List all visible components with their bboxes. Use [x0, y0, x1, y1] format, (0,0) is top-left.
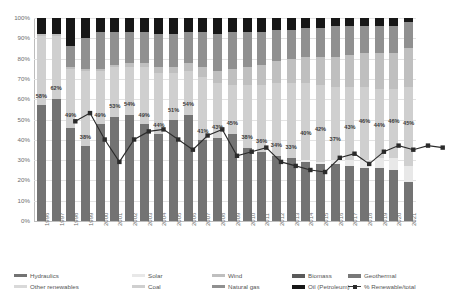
- x-tick-label: 2011: [264, 213, 270, 226]
- line-point-label: 38%: [80, 134, 91, 140]
- line-marker[interactable]: [161, 127, 165, 131]
- line-marker[interactable]: [132, 137, 136, 141]
- line-marker[interactable]: [235, 154, 239, 158]
- line-point-label: 44%: [374, 122, 385, 128]
- line-point-label: 54%: [183, 101, 194, 107]
- legend-label: Geothermal: [364, 272, 396, 279]
- x-tick-label: 2014: [308, 213, 314, 226]
- line-marker[interactable]: [191, 148, 195, 152]
- x-tick-label: 2013: [294, 213, 300, 226]
- line-point-label: 45%: [227, 120, 238, 126]
- line-marker[interactable]: [250, 150, 254, 154]
- line-point-label: 44%: [153, 122, 164, 128]
- line-marker[interactable]: [88, 111, 92, 115]
- x-tick-label: 1999: [88, 213, 94, 226]
- x-tick-label: 1997: [59, 213, 65, 226]
- line-marker[interactable]: [367, 162, 371, 166]
- x-tick-label: 2009: [235, 213, 241, 226]
- line-marker[interactable]: [308, 168, 312, 172]
- bar-segment: [154, 18, 163, 34]
- line-marker[interactable]: [382, 150, 386, 154]
- legend-item[interactable]: Other renewables: [14, 283, 79, 290]
- line-marker[interactable]: [117, 160, 121, 164]
- legend-label: Oil (Petroleum): [308, 283, 350, 290]
- y-tick-label: 30%: [0, 156, 30, 163]
- bar-segment: [389, 18, 398, 26]
- x-tick-label: 2012: [279, 213, 285, 226]
- bar-segment: [169, 18, 178, 34]
- legend-item[interactable]: Solar: [132, 272, 162, 279]
- line-marker[interactable]: [411, 148, 415, 152]
- line-marker[interactable]: [352, 152, 356, 156]
- gridline: [34, 18, 416, 19]
- line-marker[interactable]: [323, 170, 327, 174]
- x-tick-label: 2006: [191, 213, 197, 226]
- bar-segment: [243, 18, 252, 32]
- legend-swatch: [212, 274, 225, 277]
- bar-segment: [140, 18, 149, 32]
- legend-label: Hydraulics: [30, 272, 59, 279]
- x-tick-label: 2002: [132, 213, 138, 226]
- bar-column[interactable]: [37, 18, 46, 221]
- line-marker[interactable]: [279, 160, 283, 164]
- line-marker[interactable]: [147, 129, 151, 133]
- legend-label: Wind: [228, 272, 242, 279]
- bar-segment: [404, 18, 413, 22]
- line-marker[interactable]: [441, 145, 445, 149]
- x-tick-label: 2018: [367, 213, 373, 226]
- bar-segment: [257, 18, 266, 32]
- legend-item[interactable]: Geothermal: [348, 272, 396, 279]
- line-marker[interactable]: [396, 143, 400, 147]
- line-point-label: 45%: [403, 120, 414, 126]
- bar-segment: [331, 18, 340, 26]
- y-tick-label: 20%: [0, 176, 30, 183]
- y-tick-label: 80%: [0, 55, 30, 62]
- x-tick-label: 2021: [411, 213, 417, 226]
- bar-segment: [52, 99, 61, 221]
- x-tick-label: 2008: [220, 213, 226, 226]
- line-marker[interactable]: [103, 137, 107, 141]
- y-tick-label: 100%: [0, 14, 30, 21]
- legend-item[interactable]: Coal: [132, 283, 161, 290]
- y-tick-label: 90%: [0, 34, 30, 41]
- legend-item[interactable]: Oil (Petroleum): [292, 283, 350, 290]
- legend-swatch: [292, 274, 305, 278]
- legend-item[interactable]: % Renewable/total: [348, 283, 416, 290]
- x-tick-label: 2020: [396, 213, 402, 226]
- bar-column[interactable]: [52, 18, 61, 221]
- bar-segment: [184, 18, 193, 32]
- line-marker[interactable]: [205, 133, 209, 137]
- y-tick-label: 60%: [0, 95, 30, 102]
- x-tick-label: 2015: [323, 213, 329, 226]
- x-tick-label: 2005: [176, 213, 182, 226]
- legend-swatch: [14, 274, 27, 277]
- bar-segment: [316, 18, 325, 28]
- legend-item[interactable]: Wind: [212, 272, 242, 279]
- line-point-label: 36%: [256, 138, 267, 144]
- line-marker[interactable]: [73, 119, 77, 123]
- legend-label: Coal: [148, 283, 161, 290]
- legend-label: Biomass: [308, 272, 332, 279]
- legend-swatch: [292, 285, 305, 289]
- bar-segment: [272, 18, 281, 30]
- line-point-label: 49%: [139, 112, 150, 118]
- line-marker[interactable]: [294, 164, 298, 168]
- legend-swatch: [348, 274, 361, 278]
- bar-segment: [52, 18, 61, 34]
- line-marker[interactable]: [176, 137, 180, 141]
- legend-item[interactable]: Hydraulics: [14, 272, 59, 279]
- legend-item[interactable]: Natural gas: [212, 283, 260, 290]
- line-marker[interactable]: [426, 143, 430, 147]
- line-marker[interactable]: [264, 145, 268, 149]
- bar-segment: [96, 18, 105, 32]
- line-point-label: 49%: [65, 112, 76, 118]
- line-point-label: 58%: [36, 93, 47, 99]
- bar-segment: [360, 18, 369, 26]
- bar-segment: [37, 105, 46, 221]
- bar-segment: [301, 18, 310, 28]
- line-point-label: 43%: [212, 124, 223, 130]
- line-point-label: 42%: [315, 126, 326, 132]
- line-marker[interactable]: [338, 156, 342, 160]
- legend-item[interactable]: Biomass: [292, 272, 332, 279]
